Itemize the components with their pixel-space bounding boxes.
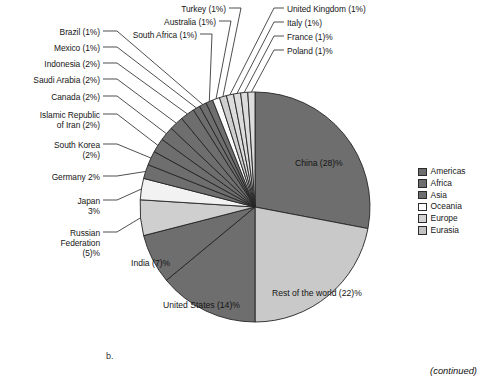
legend-label: Eurasia: [431, 226, 459, 235]
callout-italy: Italy (1%): [287, 18, 437, 28]
legend-item-africa: Africa: [418, 179, 466, 189]
leader-line-south-africa: [200, 34, 212, 101]
callout-south-africa: South Africa (1%): [60, 30, 197, 40]
legend-label: Americas: [431, 167, 466, 176]
callout-poland: Poland (1)%: [287, 46, 437, 56]
legend-swatch-americas: [418, 168, 427, 177]
leader-line-indonesia: [103, 63, 187, 114]
slice-label-rest-of-world: Rest of the world (22)%: [272, 288, 362, 298]
leader-line-italy: [237, 22, 284, 93]
legend-label: Asia: [431, 191, 447, 200]
legend-swatch-europe: [418, 214, 427, 223]
leader-line-russia: [103, 218, 141, 232]
continued-note: (continued): [430, 365, 477, 376]
callout-france: France (1)%: [287, 32, 437, 42]
callout-russia: Russian Federation (5)%: [0, 228, 100, 259]
legend-item-eurasia: Eurasia: [418, 225, 466, 235]
legend-swatch-oceania: [418, 203, 427, 212]
panel-letter: b.: [106, 351, 114, 361]
legend-label: Africa: [431, 179, 452, 188]
slice-label-india: India (7)%: [131, 258, 170, 268]
leader-line-australia: [216, 21, 231, 99]
callout-japan: Japan 3%: [0, 196, 100, 216]
callout-saudi-arabia: Saudi Arabia (2%): [0, 75, 100, 85]
pie-chart-svg: [0, 0, 483, 381]
callout-australia: Australia (1%): [60, 17, 216, 27]
leader-line-iran: [103, 114, 158, 145]
slice-label-united-states: United States (14)%: [163, 300, 240, 310]
callout-mexico: Mexico (1%): [0, 43, 100, 53]
leader-line-mexico: [103, 47, 196, 108]
leader-line-japan: [103, 189, 141, 200]
legend-item-oceania: Oceania: [418, 202, 466, 212]
legend-swatch-africa: [418, 179, 427, 188]
legend-swatch-asia: [418, 191, 427, 200]
legend: AmericasAfricaAsiaOceaniaEuropeEurasia: [418, 167, 466, 235]
leader-line-south-korea: [103, 144, 151, 158]
leader-line-saudi-arabia: [103, 79, 176, 123]
legend-item-europe: Europe: [418, 214, 466, 224]
legend-item-americas: Americas: [418, 167, 466, 177]
callout-united-kingdom: United Kingdom (1%): [287, 4, 437, 14]
leader-line-france: [244, 36, 284, 93]
callout-canada: Canada (2%): [0, 92, 100, 102]
leader-line-germany: [103, 171, 146, 176]
callout-germany: Germany 2%: [0, 172, 100, 182]
legend-swatch-eurasia: [418, 226, 427, 235]
pie-chart-figure: Brazil (1%) Mexico (1%) Indonesia (2%) S…: [0, 0, 483, 381]
legend-item-asia: Asia: [418, 190, 466, 200]
callout-indonesia: Indonesia (2%): [0, 59, 100, 69]
legend-label: Europe: [431, 214, 458, 223]
callout-south-korea: South Korea (2%): [0, 140, 100, 160]
legend-label: Oceania: [431, 202, 462, 211]
leader-line-brazil: [103, 31, 203, 105]
slice-label-china: China (28)%: [295, 158, 343, 168]
callout-iran: Islamic Republic of Iran (2%): [0, 110, 100, 130]
callout-turkey: Turkey (1%): [60, 4, 226, 14]
